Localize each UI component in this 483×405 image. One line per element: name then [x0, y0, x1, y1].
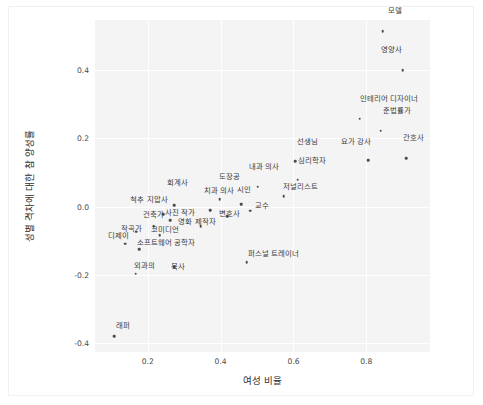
data-point-label: 사진 작가 — [165, 208, 195, 217]
data-point-label: 디제이 — [108, 231, 129, 240]
data-point — [134, 272, 137, 275]
data-point-label: 심리학자 — [298, 156, 326, 165]
gridline-horizontal — [95, 138, 430, 139]
data-point — [209, 209, 212, 212]
data-point-label: 도장공 — [219, 172, 240, 181]
y-axis-tick-label: -0.2 — [57, 270, 89, 279]
data-point — [401, 69, 404, 72]
data-point-label: 선생님 — [297, 137, 318, 146]
data-point-label: 코미디언 — [151, 225, 179, 234]
plot-area: 모델영양사인테리어 디자이너준법률가간호사요가 강사선생님심리학자내과 의사저널… — [95, 20, 430, 352]
y-axis-title-text: 성별 격차에 대한 참 양성률 — [22, 130, 36, 241]
y-axis-tick-label: 0.0 — [57, 202, 89, 211]
x-axis-tick-label: 0.6 — [287, 357, 299, 366]
data-point — [169, 219, 172, 222]
data-point-label: 변호사 — [219, 209, 240, 218]
data-point-label: 목사 — [171, 262, 185, 271]
data-point-label: 외과의 — [134, 261, 155, 270]
data-point-label: 저널리스트 — [283, 182, 318, 191]
data-point-label: 척추 지압사 — [130, 195, 167, 204]
data-point-label: 교수 — [255, 201, 269, 210]
data-point-label: 치과 의사 — [204, 186, 234, 195]
data-point — [159, 234, 162, 237]
data-point — [113, 335, 116, 338]
gridline-horizontal — [95, 70, 430, 71]
data-point — [256, 185, 259, 188]
data-point-label: 퍼스널 트레이너 — [248, 249, 299, 258]
data-point — [294, 160, 297, 163]
x-axis-title: 여성 비율 — [95, 373, 430, 387]
data-point — [367, 159, 370, 162]
data-point — [405, 157, 408, 160]
y-axis-tick-label: -0.4 — [57, 339, 89, 348]
data-point — [282, 195, 285, 198]
data-point-label: 영양사 — [381, 45, 402, 54]
gridline-horizontal — [95, 343, 430, 344]
x-axis-tick-label: 0.4 — [215, 357, 227, 366]
y-axis-tick-label: 0.4 — [57, 65, 89, 74]
data-point — [240, 203, 243, 206]
data-point-label: 요가 강사 — [341, 137, 371, 146]
scatter-chart-figure: 모델영양사인테리어 디자이너준법률가간호사요가 강사선생님심리학자내과 의사저널… — [0, 0, 483, 405]
data-point-label: 시인 — [237, 185, 251, 194]
data-point-label: 모델 — [388, 6, 402, 15]
data-point-label: 소프트웨어 공학자 — [137, 238, 195, 247]
data-point — [297, 179, 300, 182]
data-point-label: 회계사 — [167, 178, 188, 187]
data-point — [219, 198, 222, 201]
data-point-label: 건축가 — [143, 210, 164, 219]
data-point — [358, 117, 361, 120]
data-point-label: 영화 제작자 — [178, 217, 215, 226]
y-axis-title: 성별 격차에 대한 참 양성률 — [22, 20, 36, 352]
data-point — [138, 248, 141, 251]
gridline-horizontal — [95, 275, 430, 276]
x-axis-tick-label: 0.8 — [360, 357, 372, 366]
data-point-label: 준법률가 — [383, 106, 411, 115]
data-point — [246, 261, 249, 264]
data-point — [249, 209, 252, 212]
data-point-label: 래퍼 — [116, 321, 130, 330]
data-point — [173, 204, 176, 207]
data-point-label: 인테리어 디자이너 — [360, 94, 418, 103]
data-point — [381, 30, 384, 33]
data-point-label: 간호사 — [403, 133, 424, 142]
data-point — [380, 129, 383, 132]
y-axis-tick-label: 0.2 — [57, 134, 89, 143]
data-point — [124, 242, 127, 245]
x-axis-tick-label: 0.2 — [142, 357, 154, 366]
data-point-label: 내과 의사 — [249, 162, 279, 171]
